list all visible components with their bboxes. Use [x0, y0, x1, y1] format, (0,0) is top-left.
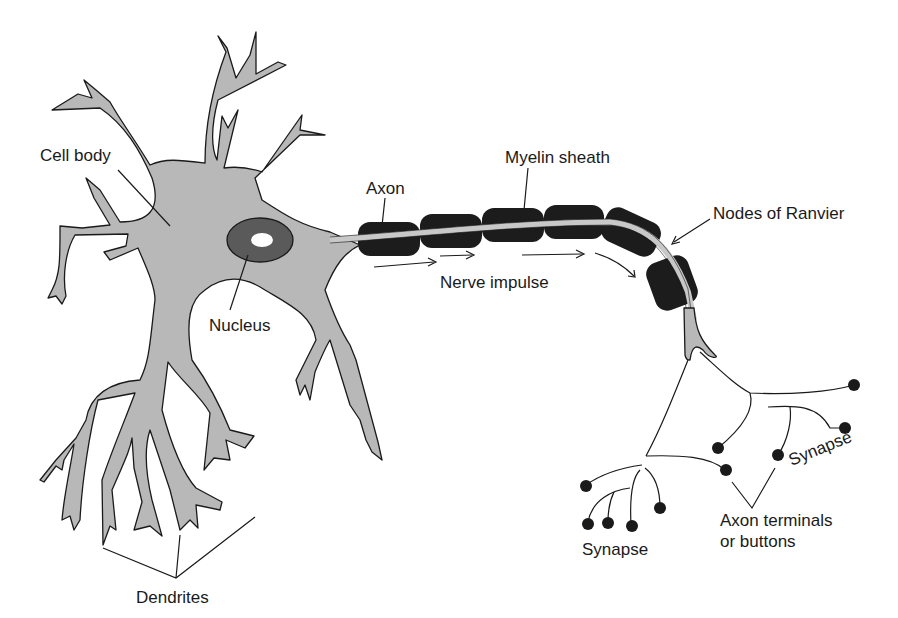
label-myelin-sheath: Myelin sheath	[505, 148, 610, 168]
myelin-sheath-segments	[358, 203, 701, 314]
label-dendrites: Dendrites	[136, 588, 209, 608]
label-nodes-of-ranvier: Nodes of Ranvier	[713, 204, 844, 224]
label-cell-body: Cell body	[40, 146, 111, 166]
label-axon: Axon	[366, 179, 405, 199]
label-or-buttons: or buttons	[720, 532, 796, 552]
cell-body-shape	[40, 32, 382, 545]
label-axon-terminals: Axon terminals	[720, 511, 832, 531]
nucleus-shape	[227, 218, 293, 262]
label-nucleus: Nucleus	[209, 316, 270, 336]
label-synapse-bottom: Synapse	[582, 540, 648, 560]
label-nerve-impulse: Nerve impulse	[440, 273, 549, 293]
